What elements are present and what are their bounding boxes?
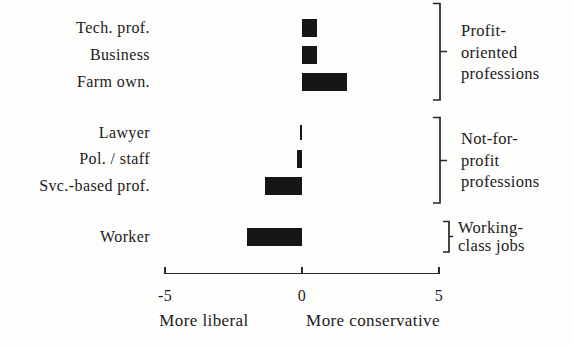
group-label-line: profit	[461, 150, 539, 172]
bracket-profit-oriented-professions	[433, 4, 447, 101]
group-label-not-for-profit-professions: Not-for-profitprofessions	[461, 128, 539, 193]
x-axis-label-more-liberal: More liberal	[124, 312, 284, 330]
group-label-line: class jobs	[458, 237, 525, 255]
group-label-profit-oriented-professions: Profit-orientedprofessions	[461, 20, 539, 85]
group-label-line: Working-	[458, 219, 525, 237]
x-axis-tick-5	[438, 267, 440, 274]
group-label-working-class-jobs: Working-class jobs	[458, 219, 525, 254]
group-label-line: professions	[461, 63, 539, 85]
x-axis-tick-0	[301, 267, 303, 274]
x-tick-label-0: 0	[282, 288, 322, 304]
group-label-line: professions	[461, 171, 539, 193]
group-label-line: Profit-	[461, 20, 539, 42]
x-tick-label--5: -5	[145, 288, 185, 304]
x-axis-label-more-conservative: More conservative	[293, 312, 453, 330]
occupation-ideology-figure: Tech. prof.BusinessFarm own.LawyerPol. /…	[0, 0, 573, 347]
x-tick-label-5: 5	[419, 288, 459, 304]
group-label-line: Not-for-	[461, 128, 539, 150]
group-label-line: oriented	[461, 42, 539, 64]
x-axis-tick--5	[164, 267, 166, 274]
bracket-working-class-jobs	[443, 222, 453, 253]
bracket-not-for-profit-professions	[433, 118, 447, 204]
